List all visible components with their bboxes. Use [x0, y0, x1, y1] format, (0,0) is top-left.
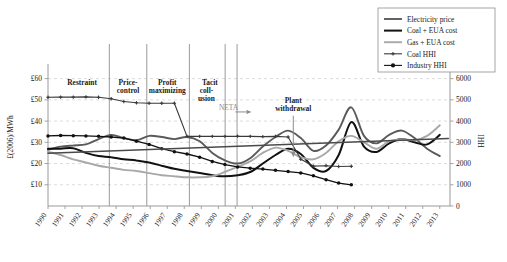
legend-item-industry-hhi-swatch-marker	[391, 63, 395, 67]
xtick-label-12: 2002	[237, 211, 253, 229]
annotation-usion-7: usion	[198, 94, 215, 103]
legend-item-coal-hhi-label: Coal HHI	[407, 50, 436, 59]
series-industry-hhi-marker-3	[84, 134, 88, 138]
xtick-label-16: 2006	[305, 211, 321, 229]
series-industry-hhi-marker-5	[109, 135, 113, 139]
ytick-label-5: £60	[31, 74, 43, 83]
y2tick-label-5: 5000	[456, 95, 471, 104]
ytick-label-4: £50	[31, 95, 43, 104]
y2tick-label-6: 6000	[456, 74, 471, 83]
series-industry-hhi-marker-0	[46, 134, 50, 138]
series-industry-hhi-marker-8	[147, 143, 151, 147]
legend-item-electricity-price-label: Electricity price	[407, 15, 455, 24]
y-axis-title-left: £(2006)/MWh	[6, 115, 15, 159]
xtick-label-18: 2008	[339, 211, 355, 229]
annotation-neta-8: NETA	[219, 103, 239, 112]
xtick-label-4: 1994	[101, 211, 117, 229]
xtick-label-9: 1999	[186, 211, 202, 229]
xtick-label-22: 2012	[407, 211, 423, 229]
xtick-label-21: 2011	[391, 211, 407, 228]
xtick-label-13: 2003	[254, 211, 270, 229]
annotation-control-2: control	[117, 86, 139, 95]
xtick-label-2: 1992	[67, 211, 83, 229]
series-industry-hhi-marker-20	[299, 171, 303, 175]
series-industry-hhi-marker-22	[324, 178, 328, 182]
series-industry-hhi-marker-16	[248, 166, 252, 170]
series-industry-hhi-marker-23	[337, 181, 341, 185]
xtick-label-8: 1998	[169, 211, 185, 229]
series-industry-hhi-marker-21	[312, 174, 316, 178]
xtick-label-23: 2013	[424, 211, 440, 229]
series-industry-hhi-marker-18	[274, 169, 278, 173]
series-industry-hhi-marker-15	[236, 165, 240, 169]
series-industry-hhi-trend	[48, 139, 448, 154]
neta-arrow-head	[247, 110, 251, 114]
series-electricity-price	[48, 107, 440, 163]
y2tick-label-2: 2000	[456, 159, 471, 168]
ytick-label-2: £30	[31, 138, 43, 147]
series-industry-hhi-marker-4	[97, 135, 101, 139]
series-industry-hhi-marker-10	[173, 150, 177, 154]
xtick-label-11: 2001	[220, 211, 236, 229]
ytick-label-1: £20	[31, 159, 43, 168]
series-industry-hhi-marker-1	[59, 134, 63, 138]
series-industry-hhi-marker-11	[185, 152, 189, 156]
y-axis-title-right: HHI	[477, 134, 486, 148]
xtick-label-7: 1997	[152, 211, 168, 229]
series-industry-hhi-marker-6	[122, 136, 126, 140]
legend-item-gas-eua-cost-label: Gas + EUA cost	[407, 38, 456, 47]
xtick-label-3: 1993	[84, 211, 100, 229]
xtick-label-1: 1991	[50, 211, 66, 229]
legend-item-industry-hhi-label: Industry HHI	[407, 61, 447, 70]
series-industry-hhi-marker-13	[211, 160, 215, 164]
xtick-label-6: 1996	[135, 211, 151, 229]
y2tick-label-1: 1000	[456, 180, 471, 189]
ytick-label-0: £10	[31, 180, 43, 189]
annotation-restraint-0: Restraint	[67, 78, 97, 87]
xtick-label-14: 2004	[271, 211, 287, 229]
y2tick-label-3: 3000	[456, 138, 471, 147]
chart-canvas: £10£20£30£40£50£600100020003000400050006…	[0, 0, 507, 262]
series-industry-hhi-marker-14	[223, 163, 227, 167]
series-industry-hhi-marker-24	[350, 183, 354, 187]
xtick-label-20: 2010	[373, 211, 389, 229]
annotation-withdrawal-10: withdrawal	[275, 104, 311, 113]
legend-item-coal-eua-cost-label: Coal + EUA cost	[407, 26, 458, 35]
series-industry-hhi-marker-17	[261, 167, 265, 171]
annotation-maximizing-4: maximizing	[149, 86, 186, 95]
xtick-label-19: 2009	[356, 211, 372, 229]
xtick-label-15: 2005	[288, 211, 304, 229]
series-industry-hhi-marker-19	[286, 170, 290, 174]
series-industry-hhi-marker-12	[198, 155, 202, 159]
ytick-label-3: £40	[31, 117, 43, 126]
xtick-label-17: 2007	[322, 211, 338, 229]
xtick-label-10: 2000	[203, 211, 219, 229]
y2tick-label-0: 0	[456, 202, 460, 211]
series-industry-hhi-marker-2	[72, 134, 76, 138]
y2tick-label-4: 4000	[456, 117, 471, 126]
chart-figure: £10£20£30£40£50£600100020003000400050006…	[0, 0, 507, 262]
series-industry-hhi-marker-7	[135, 139, 139, 143]
xtick-label-0: 1990	[33, 211, 49, 229]
xtick-label-5: 1995	[118, 211, 134, 229]
